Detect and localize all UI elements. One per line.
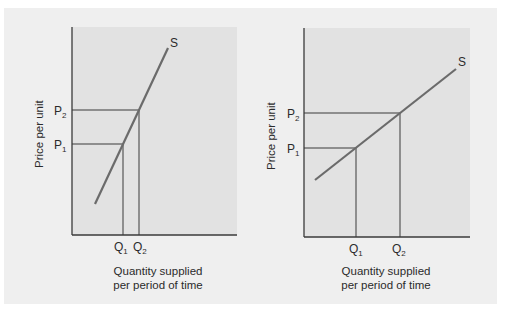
right-y-axis-label: Price per unit [265,101,277,170]
left-chart: S P2 P1 Q1 Q2 Price per unit [33,27,237,256]
left-y-axis-label: Price per unit [33,99,45,168]
right-x-axis-label: Quantity supplied per period of time [316,264,456,292]
left-q1-label: Q1 [114,240,128,256]
left-x-axis-label: Quantity supplied per period of time [88,264,228,292]
right-q2-label: Q2 [392,242,406,258]
right-x-label-line1: Quantity supplied [316,264,456,278]
right-chart: S P2 P1 Q1 Q2 Price per unit [265,28,470,258]
left-p2-label: P2 [54,104,67,120]
left-plot-area [72,27,237,235]
left-q2-label: Q2 [133,240,147,256]
right-curve-label: S [458,55,466,69]
left-p1-label: P1 [54,138,67,154]
right-plot-area [304,28,470,237]
left-x-label-line1: Quantity supplied [88,264,228,278]
left-curve-label: S [170,36,178,50]
right-x-label-line2: per period of time [316,278,456,292]
right-p2-label: P2 [287,107,300,123]
right-q1-label: Q1 [349,242,363,258]
right-p1-label: P1 [287,142,300,158]
left-x-label-line2: per period of time [88,278,228,292]
